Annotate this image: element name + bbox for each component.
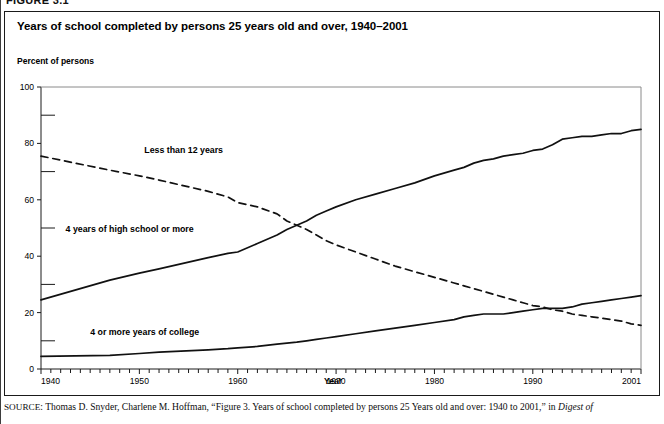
figure-number-label: FIGURE 3.1 (6, 0, 69, 6)
y-tick-label: 100 (20, 82, 35, 92)
y-tick-label: 60 (24, 195, 34, 205)
figure-frame: Years of school completed by persons 25 … (4, 11, 660, 396)
y-tick-label: 40 (24, 251, 34, 261)
x-axis-title: Year (5, 376, 661, 386)
y-tick-label: 80 (24, 138, 34, 148)
source-italic-tail: Digest of (558, 401, 593, 412)
source-text: : Thomas D. Snyder, Charlene M. Hoffman,… (40, 401, 558, 412)
series-line (41, 129, 641, 300)
series-annotation-label: Less than 12 years (144, 145, 223, 155)
figure-page: FIGURE 3.1 Years of school completed by … (0, 0, 664, 424)
series-annotation-label: 4 or more years of college (90, 327, 199, 337)
y-tick-label: 0 (29, 364, 34, 374)
series-line (41, 156, 641, 325)
y-tick-label: 20 (24, 308, 34, 318)
page-edge-rule (0, 0, 1, 424)
source-note: SOURCE: Thomas D. Snyder, Charlene M. Ho… (4, 400, 660, 414)
plot-area: 0204060801001940195019601970198019902001… (5, 12, 661, 397)
source-prefix: SOURCE (4, 402, 40, 412)
series-line (41, 296, 641, 357)
line-chart: 0204060801001940195019601970198019902001… (5, 12, 661, 397)
series-annotation-label: 4 years of high school or more (66, 224, 194, 234)
